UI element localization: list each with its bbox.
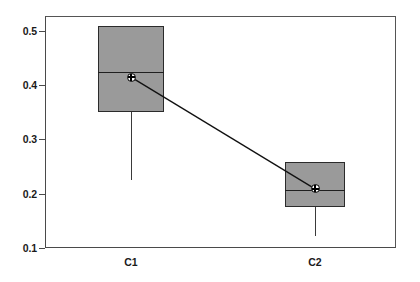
mean-marker-c1 <box>127 73 136 82</box>
y-tick-mark-0.2 <box>39 194 45 195</box>
y-axis-label-0.2: 0.2 <box>3 188 37 200</box>
x-axis-label-c1: C1 <box>101 256 161 268</box>
whisker-c1 <box>131 112 132 180</box>
whisker-c2 <box>315 207 316 236</box>
mean-marker-c2 <box>311 184 320 193</box>
box-c1 <box>98 26 164 112</box>
y-tick-mark-0.4 <box>39 85 45 86</box>
y-tick-mark-0.5 <box>39 31 45 32</box>
y-axis-label-0.4: 0.4 <box>3 79 37 91</box>
y-tick-mark-0.1 <box>39 248 45 249</box>
boxplot-figure: 0.5 0.4 0.3 0.2 0.1 C1 C2 <box>0 0 420 282</box>
y-axis-label-0.3: 0.3 <box>3 133 37 145</box>
y-tick-mark-0.3 <box>39 139 45 140</box>
y-axis-labels: 0.5 0.4 0.3 0.2 0.1 <box>0 0 37 282</box>
x-axis-label-c2: C2 <box>285 256 345 268</box>
y-axis-label-0.5: 0.5 <box>3 25 37 37</box>
y-axis-label-0.1: 0.1 <box>3 242 37 254</box>
